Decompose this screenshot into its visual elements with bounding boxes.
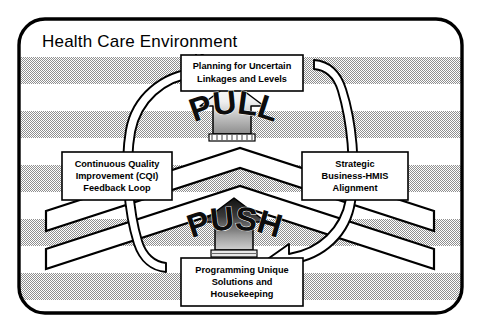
planning-box-line-1: Planning for Uncertain <box>193 61 292 71</box>
alignment-box-line-2: Business-HMIS <box>322 171 389 181</box>
cqi-box-line-1: Continuous Quality <box>75 159 161 169</box>
diagram-canvas: Planning for Uncertain Linkages and Leve… <box>0 0 481 330</box>
programming-box-line-2: Solutions and <box>212 277 273 287</box>
cqi-box-line-3: Feedback Loop <box>83 183 151 193</box>
programming-box[interactable]: Programming Unique Solutions and Houseke… <box>181 258 303 306</box>
page-title: Health Care Environment <box>42 32 238 51</box>
cqi-box[interactable]: Continuous Quality Improvement (CQI) Fee… <box>62 152 172 200</box>
cqi-box-line-2: Improvement (CQI) <box>76 171 159 181</box>
programming-box-line-3: Housekeeping <box>211 289 274 299</box>
alignment-box-line-1: Strategic <box>335 159 374 169</box>
alignment-box-line-3: Alignment <box>333 183 378 193</box>
alignment-box[interactable]: Strategic Business-HMIS Alignment <box>302 152 408 200</box>
programming-box-line-1: Programming Unique <box>195 265 288 275</box>
striped-background: Planning for Uncertain Linkages and Leve… <box>19 19 462 313</box>
planning-box-line-2: Linkages and Levels <box>197 74 287 84</box>
